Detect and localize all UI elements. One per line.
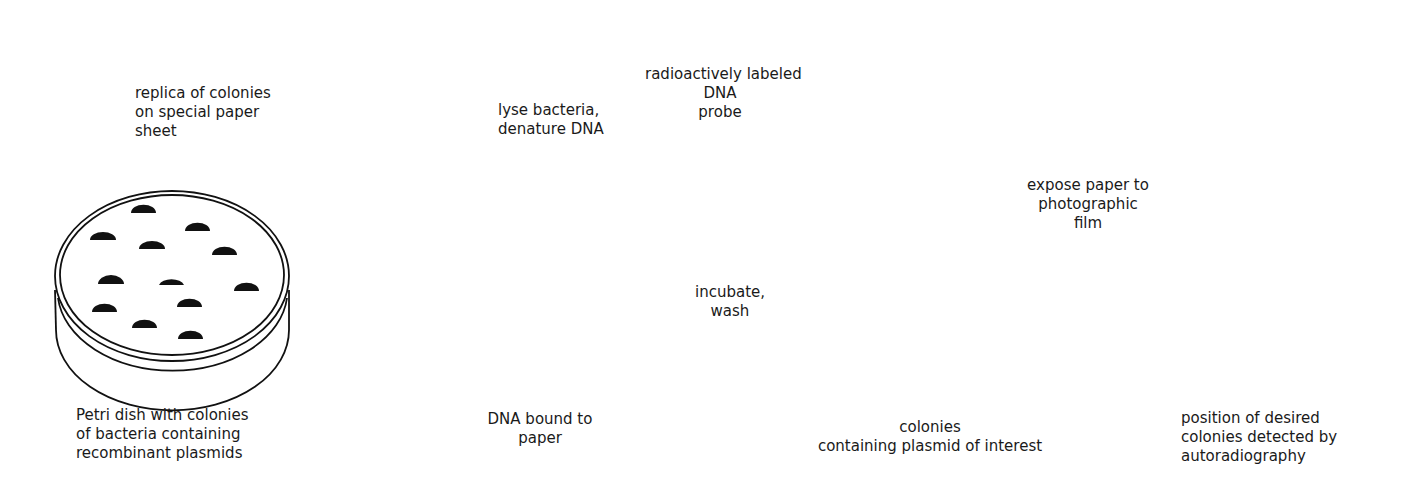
- label-probe: radioactively labeled DNA probe: [645, 65, 795, 122]
- label-result: position of desired colonies detected by…: [1181, 409, 1337, 466]
- label-dna-bound: DNA bound to paper: [470, 410, 610, 448]
- petri-colonies: [90, 205, 259, 339]
- label-petri-dish: Petri dish with colonies of bacteria con…: [76, 406, 249, 463]
- label-lyse: lyse bacteria, denature DNA: [498, 101, 604, 139]
- petri-dish: [55, 191, 289, 410]
- label-replica: replica of colonies on special paper she…: [135, 84, 271, 141]
- label-incubate: incubate, wash: [680, 283, 780, 321]
- label-expose: expose paper to photographic film: [1018, 176, 1158, 233]
- label-positive-colonies: colonies containing plasmid of interest: [800, 418, 1060, 456]
